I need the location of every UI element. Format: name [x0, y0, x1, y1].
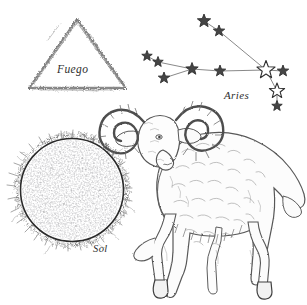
- aries-ram-figure: [0, 0, 307, 305]
- aries-astrology-plate: Fuego Sol Aries: [0, 0, 307, 305]
